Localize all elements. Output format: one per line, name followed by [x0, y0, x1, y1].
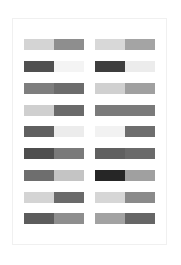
swatch-pair-right — [95, 148, 155, 159]
color-swatch — [24, 105, 54, 116]
swatch-pair-left — [24, 83, 84, 94]
color-swatch — [54, 170, 84, 181]
swatch-pair-right — [95, 170, 155, 181]
color-swatch — [95, 126, 125, 137]
color-swatch — [125, 126, 155, 137]
color-swatch — [125, 105, 155, 116]
color-swatch — [95, 39, 125, 50]
color-swatch — [125, 39, 155, 50]
color-swatch — [24, 192, 54, 203]
color-swatch — [54, 126, 84, 137]
swatch-pair-right — [95, 213, 155, 224]
swatch-pair-left — [24, 170, 84, 181]
color-swatch — [95, 105, 125, 116]
color-swatch — [24, 83, 54, 94]
swatch-pair-left — [24, 148, 84, 159]
swatch-pair-right — [95, 61, 155, 72]
swatch-pair-left — [24, 105, 84, 116]
color-swatch — [125, 148, 155, 159]
color-swatch — [125, 61, 155, 72]
color-swatch — [125, 192, 155, 203]
swatch-pair-right — [95, 192, 155, 203]
color-swatch — [24, 39, 54, 50]
swatch-pair-left — [24, 126, 84, 137]
color-swatch — [95, 170, 125, 181]
swatch-pair-left — [24, 61, 84, 72]
swatch-pair-right — [95, 126, 155, 137]
color-swatch — [24, 213, 54, 224]
swatch-pair-right — [95, 39, 155, 50]
color-swatch — [125, 83, 155, 94]
color-swatch — [54, 83, 84, 94]
color-swatch — [95, 213, 125, 224]
color-swatch — [54, 148, 84, 159]
color-swatch — [54, 61, 84, 72]
color-swatch — [54, 39, 84, 50]
color-swatch — [95, 83, 125, 94]
color-swatch — [24, 170, 54, 181]
color-swatch — [125, 170, 155, 181]
color-swatch — [54, 192, 84, 203]
color-swatch — [24, 61, 54, 72]
color-swatch — [95, 61, 125, 72]
color-swatch — [54, 213, 84, 224]
color-swatch — [95, 192, 125, 203]
swatch-pair-right — [95, 105, 155, 116]
color-swatch — [24, 126, 54, 137]
swatch-pair-left — [24, 213, 84, 224]
color-swatch — [125, 213, 155, 224]
color-swatch — [24, 148, 54, 159]
swatch-pair-right — [95, 83, 155, 94]
swatch-pair-left — [24, 192, 84, 203]
color-swatch — [95, 148, 125, 159]
color-swatch — [54, 105, 84, 116]
swatch-pair-left — [24, 39, 84, 50]
